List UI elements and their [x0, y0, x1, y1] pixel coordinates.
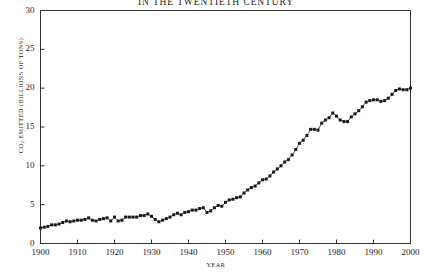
data-point-marker [243, 192, 246, 195]
data-point-marker [387, 97, 390, 100]
series-line [41, 88, 411, 228]
chart-figure: IN THE TWENTIETH CENTURY CO2 EMITTED (BI… [0, 0, 432, 277]
data-point-marker [128, 216, 131, 219]
data-point-marker [72, 219, 75, 222]
data-point-marker [320, 122, 323, 125]
data-point-marker [191, 209, 194, 212]
data-point-marker [302, 139, 305, 142]
x-axis-ticks [78, 240, 374, 244]
data-point-marker [239, 195, 242, 198]
data-point-marker [328, 116, 331, 119]
data-point-marker [39, 226, 42, 229]
data-point-marker [213, 206, 216, 209]
y-axis-tick-label: 10 [9, 161, 35, 170]
data-point-marker [383, 99, 386, 102]
data-point-marker [342, 120, 345, 123]
data-point-marker [272, 171, 275, 174]
y-axis-tick-label: 15 [9, 122, 35, 131]
data-point-marker [372, 98, 375, 101]
data-point-marker [58, 223, 61, 226]
data-point-marker [220, 205, 223, 208]
data-point-marker [143, 214, 146, 217]
data-point-marker [157, 220, 160, 223]
data-point-marker [217, 204, 220, 207]
data-point-marker [231, 198, 234, 201]
data-point-marker [206, 211, 209, 214]
y-axis-tick-label: 5 [9, 200, 35, 209]
y-axis-tick-label: 0 [9, 239, 35, 248]
data-point-marker [368, 99, 371, 102]
data-point-marker [165, 217, 168, 220]
data-point-marker [335, 115, 338, 118]
plot-frame-rect [41, 11, 411, 244]
data-point-marker [80, 219, 83, 222]
data-point-marker [298, 142, 301, 145]
data-point-marker [409, 87, 412, 90]
data-point-marker [76, 219, 79, 222]
y-axis-tick-label: 25 [9, 44, 35, 53]
data-point-marker [120, 219, 123, 222]
data-point-marker [50, 223, 53, 226]
plot-frame [41, 11, 411, 244]
x-axis-label: YEAR [0, 261, 432, 268]
data-point-marker [376, 98, 379, 101]
data-point-marker [113, 216, 116, 219]
data-point-marker [394, 89, 397, 92]
data-point-marker [46, 225, 49, 228]
data-point-marker [317, 129, 320, 132]
y-axis-tick-label: 20 [9, 83, 35, 92]
data-point-marker [305, 134, 308, 137]
data-point-marker [183, 211, 186, 214]
data-point-marker [402, 88, 405, 91]
data-point-marker [209, 209, 212, 212]
data-point-marker [102, 217, 105, 220]
data-point-marker [257, 181, 260, 184]
data-point-marker [98, 218, 101, 221]
y-axis-tick-label: 30 [9, 6, 35, 15]
data-point-marker [106, 216, 109, 219]
data-point-marker [65, 219, 68, 222]
data-point-marker [109, 219, 112, 222]
data-point-marker [161, 219, 164, 222]
data-point-marker [254, 185, 257, 188]
data-point-marker [246, 188, 249, 191]
data-point-marker [187, 210, 190, 213]
data-point-marker [180, 213, 183, 216]
data-point-marker [265, 178, 268, 181]
data-point-marker [379, 100, 382, 103]
data-point-marker [250, 186, 253, 189]
data-point-marker [169, 216, 172, 219]
data-point-marker [154, 218, 157, 221]
data-point-marker [350, 115, 353, 118]
data-point-marker [139, 214, 142, 217]
data-point-marker [280, 164, 283, 167]
data-point-marker [309, 128, 312, 131]
data-point-marker [354, 112, 357, 115]
data-point-marker [294, 148, 297, 151]
data-point-marker [146, 212, 149, 215]
data-point-marker [54, 223, 57, 226]
data-point-marker [87, 216, 90, 219]
data-point-marker [357, 109, 360, 112]
data-point-marker [224, 201, 227, 204]
data-point-marker [61, 221, 64, 224]
chart-title: IN THE TWENTIETH CENTURY [0, 0, 432, 7]
data-point-marker [313, 128, 316, 131]
data-point-marker [132, 216, 135, 219]
data-point-marker [268, 174, 271, 177]
plot-area [0, 0, 432, 277]
data-point-marker [291, 153, 294, 156]
x-axis-tick-label: 2000 [389, 248, 432, 257]
data-point-marker [287, 158, 290, 161]
data-point-marker [69, 220, 72, 223]
data-point-marker [324, 119, 327, 122]
y-axis-label-prefix: CO [17, 144, 24, 154]
data-point-marker [176, 212, 179, 215]
data-point-marker [283, 160, 286, 163]
data-point-marker [365, 101, 368, 104]
y-axis-label-subscript: 2 [20, 141, 25, 144]
data-point-marker [261, 178, 264, 181]
data-point-marker [202, 206, 205, 209]
data-point-marker [346, 120, 349, 123]
y-axis-ticks [41, 49, 45, 204]
